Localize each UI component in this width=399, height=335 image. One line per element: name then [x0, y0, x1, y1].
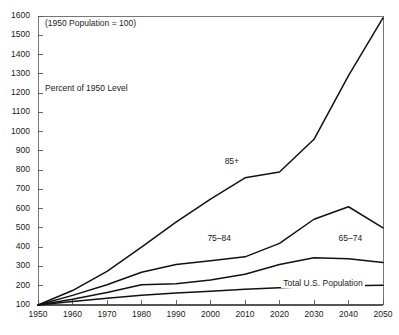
x-tick-label-2000: 2000 — [194, 309, 228, 319]
series-line-85+ — [38, 18, 383, 305]
y-tick-label-800: 800 — [4, 164, 30, 174]
x-tick-label-2030: 2030 — [297, 309, 331, 319]
x-tick-label-2040: 2040 — [332, 309, 366, 319]
y-tick-label-1300: 1300 — [4, 68, 30, 78]
series-label-Total U.S. Population: Total U.S. Population — [281, 278, 364, 288]
y-tick-label-1500: 1500 — [4, 29, 30, 39]
x-tick-label-2050: 2050 — [366, 309, 399, 319]
x-tick-label-1960: 1960 — [56, 309, 90, 319]
x-tick-label-2010: 2010 — [228, 309, 262, 319]
x-tick-label-1970: 1970 — [90, 309, 124, 319]
plot-frame — [38, 16, 383, 305]
chart-container: 1002003004005006007008009001000110012001… — [0, 0, 399, 335]
series-label-75-84: 75–84 — [205, 233, 233, 243]
y-axis-ticks — [38, 16, 43, 305]
x-tick-label-1950: 1950 — [21, 309, 55, 319]
y-tick-label-700: 700 — [4, 183, 30, 193]
x-tick-label-2020: 2020 — [263, 309, 297, 319]
x-tick-label-1990: 1990 — [159, 309, 193, 319]
y-tick-label-1600: 1600 — [4, 10, 30, 20]
percent-of-1950-level-label: Percent of 1950 Level — [44, 83, 129, 93]
data-series-lines — [38, 18, 383, 305]
x-axis-ticks — [38, 300, 383, 305]
series-label-65-74: 65–74 — [337, 233, 365, 243]
y-tick-label-400: 400 — [4, 241, 30, 251]
series-label-85+: 85+ — [223, 156, 241, 166]
y-tick-label-1100: 1100 — [4, 106, 30, 116]
y-tick-label-600: 600 — [4, 203, 30, 213]
y-tick-label-1000: 1000 — [4, 126, 30, 136]
population-base-note: (1950 Population = 100) — [44, 18, 137, 28]
y-tick-label-1400: 1400 — [4, 49, 30, 59]
y-tick-label-200: 200 — [4, 280, 30, 290]
y-tick-label-1200: 1200 — [4, 87, 30, 97]
y-tick-label-900: 900 — [4, 145, 30, 155]
y-tick-label-300: 300 — [4, 260, 30, 270]
x-tick-label-1980: 1980 — [125, 309, 159, 319]
y-tick-label-500: 500 — [4, 222, 30, 232]
series-line-75-84 — [38, 207, 383, 305]
y-tick-label-100: 100 — [4, 299, 30, 309]
